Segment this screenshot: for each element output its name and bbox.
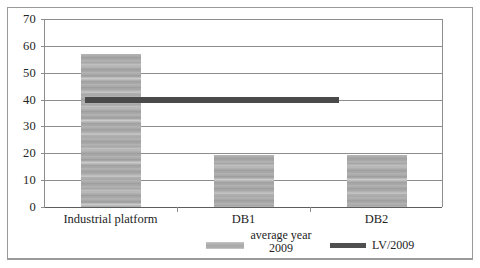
bar-db1 <box>214 155 274 207</box>
gridline-0 <box>44 207 442 208</box>
y-tick-60 <box>41 46 45 47</box>
y-axis-spine <box>44 19 45 207</box>
y-tick-20 <box>41 153 45 154</box>
chart-figure: 706050403020100 Industrial platformDB1DB… <box>0 0 480 268</box>
plot-area <box>44 19 443 207</box>
y-tick-label-40: 40 <box>6 94 36 106</box>
x-tick-label-industrial-platform: Industrial platform <box>36 212 186 226</box>
x-tick-label-db2: DB2 <box>302 212 452 226</box>
bar-db2 <box>347 155 407 207</box>
gridline-70 <box>44 19 442 20</box>
y-tick-label-70: 70 <box>6 13 36 25</box>
legend-divider-rule <box>8 258 472 259</box>
threshold-line-lv2009 <box>85 97 339 103</box>
bar-industrial-platform <box>81 54 141 207</box>
y-tick-label-20: 20 <box>6 147 36 159</box>
y-tick-label-50: 50 <box>6 67 36 79</box>
y-tick-30 <box>41 126 45 127</box>
gridline-60 <box>44 46 442 47</box>
legend-label-average-year: average year 2009 <box>236 229 326 254</box>
x-tick-label-db1: DB1 <box>169 212 319 226</box>
y-tick-40 <box>41 100 45 101</box>
y-tick-label-30: 30 <box>6 120 36 132</box>
y-tick-10 <box>41 180 45 181</box>
y-tick-0 <box>41 207 45 208</box>
y-tick-label-0: 0 <box>6 201 36 213</box>
y-tick-70 <box>41 19 45 20</box>
chart-legend: average year 2009 LV/2009 <box>8 228 472 256</box>
y-tick-50 <box>41 73 45 74</box>
legend-label-average-year-line1: average year <box>236 229 326 242</box>
legend-label-average-year-line2: 2009 <box>236 242 326 255</box>
y-tick-label-10: 10 <box>6 174 36 186</box>
y-tick-label-60: 60 <box>6 40 36 52</box>
legend-swatch-lv2009 <box>330 243 366 248</box>
legend-label-lv2009: LV/2009 <box>372 239 414 252</box>
